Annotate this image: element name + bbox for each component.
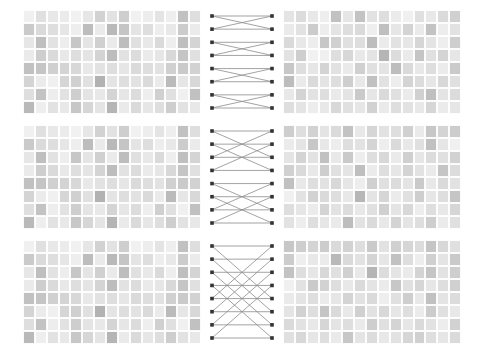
heatmap-cell (402, 253, 414, 266)
heatmap-cell (177, 49, 189, 62)
heatmap-cell (70, 203, 82, 216)
heatmap-cell (390, 216, 402, 229)
heatmap-cell (142, 305, 154, 318)
heatmap-cell (295, 190, 307, 203)
heatmap-cell (82, 49, 94, 62)
heatmap-cell (130, 266, 142, 279)
heatmap-cell (189, 318, 201, 331)
heatmap-cell (94, 240, 106, 253)
heatmap-cell (177, 253, 189, 266)
heatmap-cell (130, 49, 142, 62)
heatmap-cell (118, 164, 130, 177)
heatmap-cell (437, 240, 449, 253)
network-node-output (270, 106, 274, 110)
heatmap-cell (165, 203, 177, 216)
heatmap-cell (414, 305, 426, 318)
heatmap-cell (319, 190, 331, 203)
heatmap-cell (425, 253, 437, 266)
heatmap-cell (378, 75, 390, 88)
heatmap-cell (142, 190, 154, 203)
heatmap-cell (283, 164, 295, 177)
network-panel-2 (203, 125, 281, 229)
heatmap-cell (106, 164, 118, 177)
heatmap-cell (414, 177, 426, 190)
output-heatmap-panel-2 (283, 125, 461, 229)
heatmap-cell (59, 101, 71, 114)
heatmap-cell (307, 279, 319, 292)
heatmap-cell (47, 177, 59, 190)
heatmap-cell (330, 10, 342, 23)
heatmap-cell (307, 190, 319, 203)
heatmap-cell (425, 88, 437, 101)
heatmap-cell (437, 75, 449, 88)
heatmap-cell (354, 177, 366, 190)
heatmap-cell (402, 190, 414, 203)
heatmap-cell (106, 62, 118, 75)
heatmap-cell (414, 164, 426, 177)
heatmap-cell (118, 75, 130, 88)
heatmap-cell (142, 177, 154, 190)
heatmap-cell (118, 292, 130, 305)
heatmap-cell (82, 190, 94, 203)
network-node-input (210, 182, 214, 186)
heatmap-cell (390, 151, 402, 164)
heatmap-cell (414, 101, 426, 114)
heatmap-cell (449, 75, 461, 88)
heatmap-cell (59, 138, 71, 151)
butterfly-network-figure (0, 0, 480, 359)
heatmap-cell (402, 23, 414, 36)
heatmap-cell (307, 75, 319, 88)
heatmap-cell (437, 177, 449, 190)
heatmap-cell (130, 292, 142, 305)
heatmap-cell (414, 292, 426, 305)
heatmap-cell (390, 36, 402, 49)
heatmap-cell (177, 88, 189, 101)
heatmap-cell (402, 75, 414, 88)
heatmap-cell (354, 279, 366, 292)
heatmap-cell (390, 240, 402, 253)
heatmap-cell (23, 23, 35, 36)
heatmap-cell (94, 331, 106, 344)
heatmap-cell (94, 292, 106, 305)
heatmap-cell (354, 75, 366, 88)
heatmap-cell (47, 88, 59, 101)
heatmap-cell (449, 164, 461, 177)
heatmap-cell (142, 164, 154, 177)
heatmap-cell (165, 292, 177, 305)
heatmap-cell (130, 177, 142, 190)
heatmap-cell (425, 138, 437, 151)
heatmap-cell (283, 49, 295, 62)
heatmap-cell (118, 203, 130, 216)
heatmap-cell (82, 36, 94, 49)
heatmap-cell (106, 279, 118, 292)
heatmap-cell (23, 190, 35, 203)
heatmap-cell (437, 190, 449, 203)
heatmap-cell (402, 240, 414, 253)
heatmap-cell (189, 151, 201, 164)
heatmap-cell (130, 151, 142, 164)
heatmap-cell (59, 125, 71, 138)
butterfly-network-stage-3 (203, 240, 281, 344)
heatmap-cell (319, 138, 331, 151)
heatmap-cell (35, 101, 47, 114)
heatmap-cell (390, 88, 402, 101)
heatmap-cell (82, 292, 94, 305)
heatmap-cell (295, 10, 307, 23)
heatmap-cell (165, 125, 177, 138)
heatmap-cell (330, 253, 342, 266)
network-node-output (270, 257, 274, 261)
heatmap-cell (330, 36, 342, 49)
heatmap-cell (82, 88, 94, 101)
heatmap-cell (307, 138, 319, 151)
heatmap-cell (402, 292, 414, 305)
heatmap-cell (390, 138, 402, 151)
heatmap-cell (414, 138, 426, 151)
heatmap-cell (189, 203, 201, 216)
heatmap-cell (47, 318, 59, 331)
heatmap-cell (82, 266, 94, 279)
heatmap-cell (378, 305, 390, 318)
heatmap-cell (177, 164, 189, 177)
heatmap-cell (59, 279, 71, 292)
heatmap-cell (390, 203, 402, 216)
heatmap-cell (330, 23, 342, 36)
